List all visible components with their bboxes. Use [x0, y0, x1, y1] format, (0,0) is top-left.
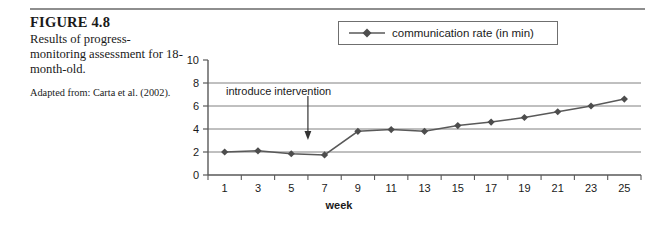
- x-axis-tick-label: 17: [485, 182, 497, 194]
- y-axis-tick-label: 8: [193, 77, 199, 89]
- legend-label: communication rate (in min): [392, 27, 534, 39]
- y-axis-tick-label: 6: [193, 100, 199, 112]
- data-point-marker: [521, 114, 528, 121]
- data-point-marker: [454, 122, 461, 129]
- data-point-marker: [488, 119, 495, 126]
- data-series: [221, 96, 628, 159]
- data-point-marker: [254, 147, 261, 154]
- y-axis-tick-label: 10: [187, 54, 199, 66]
- y-axis-tick-label: 0: [193, 169, 199, 181]
- data-point-marker: [221, 148, 228, 155]
- x-axis-tick-label: 21: [552, 182, 564, 194]
- legend-entry: communication rate (in min): [349, 22, 534, 44]
- legend-marker-icon: [349, 27, 385, 39]
- x-axis: 135791113151719212325: [208, 175, 641, 194]
- x-axis-tick-label: 3: [255, 182, 261, 194]
- intervention-annotation-label: introduce intervention: [226, 85, 331, 97]
- x-axis-tick-label: 5: [288, 182, 294, 194]
- chart-canvas: 0246810 135791113151719212325: [0, 0, 660, 225]
- x-axis-title: week: [0, 199, 660, 211]
- x-axis-tick-label: 23: [585, 182, 597, 194]
- data-point-marker: [554, 108, 561, 115]
- data-point-marker: [288, 150, 295, 157]
- intervention-arrow-icon: [305, 96, 312, 140]
- data-point-marker: [621, 96, 628, 103]
- x-axis-tick-label: 9: [355, 182, 361, 194]
- data-point-marker: [587, 102, 594, 109]
- arrow-head: [305, 131, 312, 140]
- x-axis-tick-label: 7: [322, 182, 328, 194]
- x-axis-title-text: week: [326, 199, 353, 211]
- x-axis-tick-label: 13: [418, 182, 430, 194]
- y-axis-tick-label: 4: [193, 123, 199, 135]
- data-point-marker: [388, 126, 395, 133]
- x-axis-tick-label: 25: [618, 182, 630, 194]
- x-axis-tick-label: 15: [452, 182, 464, 194]
- x-axis-tick-label: 1: [222, 182, 228, 194]
- y-axis: 0246810: [187, 54, 208, 181]
- chart-legend: communication rate (in min): [338, 21, 558, 45]
- line-chart: 0246810 135791113151719212325: [0, 0, 660, 225]
- y-axis-tick-label: 2: [193, 146, 199, 158]
- figure-container: FIGURE 4.8 Results of progress-monitorin…: [0, 0, 660, 225]
- series-line: [225, 99, 625, 155]
- x-axis-tick-label: 19: [518, 182, 530, 194]
- x-axis-tick-label: 11: [385, 182, 396, 194]
